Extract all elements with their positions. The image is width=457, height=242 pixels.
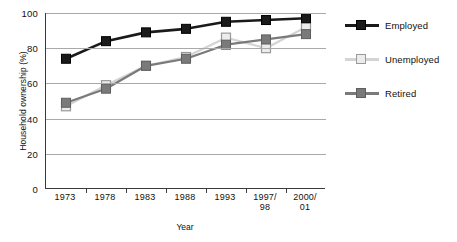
gridline: [46, 48, 326, 49]
data-point-marker: [302, 14, 311, 23]
legend-marker-icon: [356, 88, 366, 98]
x-tick-label-line: 1993: [215, 192, 236, 202]
plot-area: [45, 13, 325, 189]
data-point-marker: [102, 84, 111, 93]
x-tick-label: 2000/01: [293, 192, 317, 212]
x-tick-label: 1988: [175, 192, 196, 202]
series-retired: [62, 30, 311, 108]
legend-line-swatch: [345, 24, 379, 27]
y-tick-label: 80: [4, 43, 38, 54]
legend-marker-icon: [356, 20, 366, 30]
x-tick-label: 1983: [135, 192, 156, 202]
x-tick-label-line: 1983: [135, 192, 156, 202]
x-axis-title: Year: [45, 222, 325, 232]
y-axis-tick-labels: 020406080100: [4, 0, 38, 242]
gridline: [46, 154, 326, 155]
y-tick-label: 0: [4, 184, 38, 195]
x-tick-label-line: 1997/: [253, 192, 277, 202]
data-point-marker: [102, 37, 111, 46]
legend-item-unemployed[interactable]: Unemployed: [345, 52, 439, 66]
x-tick-label: 1973: [55, 192, 76, 202]
series-lines: [46, 13, 326, 189]
gridline: [46, 83, 326, 84]
data-point-marker: [262, 35, 271, 44]
y-tick-label: 60: [4, 78, 38, 89]
gridline: [46, 119, 326, 120]
legend-item-retired[interactable]: Retired: [345, 86, 416, 100]
gridline: [46, 13, 326, 14]
chart-container: Household ownership (%) 020406080100 197…: [0, 0, 457, 242]
x-tick-label-line: 98: [253, 202, 277, 212]
y-tick-label: 100: [4, 8, 38, 19]
x-tick-label: 1993: [215, 192, 236, 202]
data-point-marker: [262, 16, 271, 25]
x-tick-label: 1978: [95, 192, 116, 202]
data-point-marker: [182, 54, 191, 63]
legend-label: Retired: [385, 88, 416, 99]
data-point-marker: [302, 30, 311, 39]
legend-line-swatch: [345, 58, 379, 61]
data-point-marker: [142, 61, 151, 70]
x-tick-label-line: 01: [293, 202, 317, 212]
x-tick-label: 1997/98: [253, 192, 277, 212]
data-point-marker: [142, 28, 151, 37]
legend-line-swatch: [345, 92, 379, 95]
x-tick-label-line: 1978: [95, 192, 116, 202]
data-point-marker: [62, 54, 71, 63]
data-point-marker: [62, 98, 71, 107]
legend-marker-icon: [356, 54, 366, 64]
x-tick-label-line: 1988: [175, 192, 196, 202]
series-unemployed: [62, 23, 311, 111]
legend-label: Employed: [385, 20, 428, 31]
data-point-marker: [182, 24, 191, 33]
y-tick-label: 40: [4, 113, 38, 124]
x-axis-tick-labels: 197319781983198819931997/982000/01: [45, 192, 325, 222]
data-point-marker: [222, 17, 231, 26]
y-tick-label: 20: [4, 148, 38, 159]
x-tick-label-line: 1973: [55, 192, 76, 202]
legend-item-employed[interactable]: Employed: [345, 18, 428, 32]
x-tick-label-line: 2000/: [293, 192, 317, 202]
legend-label: Unemployed: [385, 54, 439, 65]
